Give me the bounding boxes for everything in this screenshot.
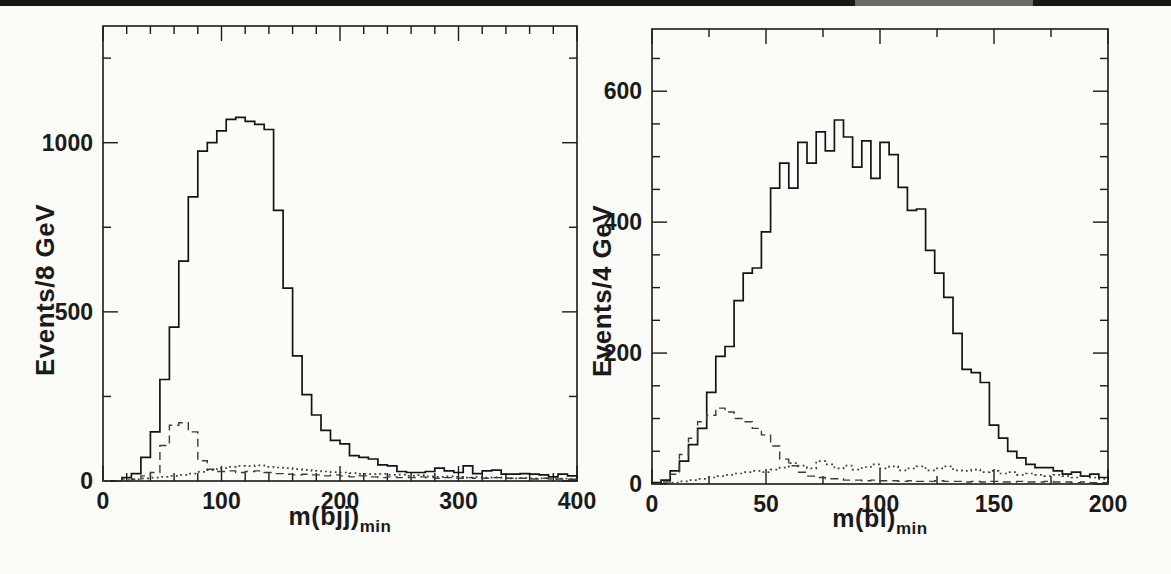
right-signal-solid-histogram xyxy=(652,120,1108,484)
right-y-tick-label: 0 xyxy=(629,471,642,497)
left-y-tick-label: 0 xyxy=(80,468,93,494)
left-x-axis-title-subscript: min xyxy=(360,517,392,536)
left-x-tick-label: 100 xyxy=(202,488,240,514)
left-panel: 010020030040005001000 xyxy=(42,26,596,514)
left-signal-solid-histogram xyxy=(103,117,577,481)
right-y-tick-label: 600 xyxy=(604,78,642,104)
right-x-tick-label: 50 xyxy=(753,491,779,517)
left-y-tick-label: 1000 xyxy=(42,130,93,156)
right-y-axis-title: Events/4 GeV xyxy=(587,205,618,377)
histogram-figure-svg: 0100200300400050010000501001502000200400… xyxy=(0,0,1171,574)
left-x-tick-label: 400 xyxy=(558,488,596,514)
left-y-axis-title: Events/8 GeV xyxy=(30,204,61,376)
right-x-tick-label: 200 xyxy=(1089,491,1127,517)
right-x-axis-title: m(bl)min xyxy=(832,504,927,539)
left-x-axis-title: m(bjj)min xyxy=(289,502,392,537)
right-x-tick-label: 0 xyxy=(646,491,659,517)
left-plot-frame xyxy=(103,26,577,481)
left-x-axis-title-main: m(bjj) xyxy=(289,502,360,530)
left-x-tick-label: 300 xyxy=(439,488,477,514)
right-x-axis-title-main: m(bl) xyxy=(832,504,896,532)
right-plot-frame xyxy=(652,29,1108,484)
right-panel: 0501001502000200400600 xyxy=(604,29,1128,517)
right-x-tick-label: 150 xyxy=(975,491,1013,517)
right-x-axis-title-subscript: min xyxy=(896,519,928,538)
left-x-tick-label: 0 xyxy=(97,488,110,514)
